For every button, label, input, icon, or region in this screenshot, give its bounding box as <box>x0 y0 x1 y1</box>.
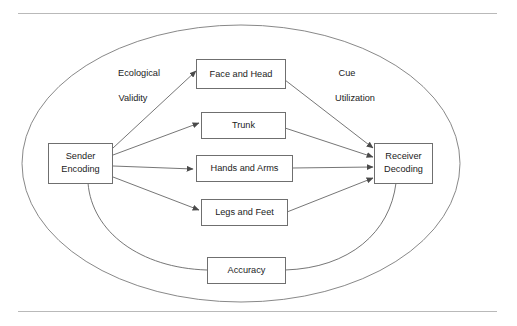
edge-sender-to-trunk <box>113 123 199 155</box>
node-face-and-head[interactable]: Face and Head <box>197 60 286 89</box>
node-accuracy[interactable]: Accuracy <box>208 258 286 284</box>
annotation-cue-utilization-line2: Utilization <box>335 93 375 103</box>
node-hands-and-arms[interactable]: Hands and Arms <box>197 156 293 182</box>
node-receiver-decoding-line2: Decoding <box>384 164 423 174</box>
node-legs-and-feet-label: Legs and Feet <box>215 207 274 217</box>
node-sender-encoding-line1: Sender <box>66 151 96 161</box>
node-trunk-label: Trunk <box>232 120 256 130</box>
node-sender-encoding[interactable]: Sender Encoding <box>49 144 113 184</box>
edge-accuracy-to-receiver <box>285 183 396 270</box>
node-sender-encoding-line2: Encoding <box>61 164 99 174</box>
edge-legs-to-receiver <box>287 178 373 212</box>
edge-hands-to-receiver <box>292 167 373 168</box>
annotation-ecological-validity-line2: Validity <box>119 93 148 103</box>
node-accuracy-label: Accuracy <box>228 265 266 275</box>
edge-sender-to-legs <box>113 177 199 210</box>
edge-sender-to-hands <box>113 166 193 169</box>
edge-sender-to-accuracy <box>88 183 207 270</box>
annotation-ecological-validity-line1: Ecological <box>118 68 160 78</box>
node-legs-and-feet[interactable]: Legs and Feet <box>202 200 288 226</box>
edge-sender-to-face <box>113 71 196 148</box>
node-receiver-decoding-line1: Receiver <box>385 151 421 161</box>
node-receiver-decoding[interactable]: Receiver Decoding <box>375 144 433 184</box>
edge-face-to-receiver <box>285 80 373 148</box>
node-face-and-head-label: Face and Head <box>210 69 273 79</box>
node-hands-and-arms-label: Hands and Arms <box>211 163 279 173</box>
annotation-cue-utilization-line1: Cue <box>339 68 356 78</box>
node-trunk[interactable]: Trunk <box>202 113 286 139</box>
figure-canvas: Sender Encoding Face and Head Trunk Hand… <box>0 0 517 326</box>
edge-trunk-to-receiver <box>285 128 373 157</box>
